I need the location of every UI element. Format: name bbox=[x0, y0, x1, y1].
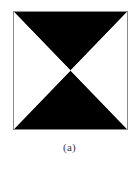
hourglass-bowtie-pattern bbox=[14, 12, 127, 129]
figure-panel: (a) bbox=[0, 0, 139, 170]
pattern-frame bbox=[13, 11, 128, 130]
figure-caption: (a) bbox=[0, 140, 139, 154]
